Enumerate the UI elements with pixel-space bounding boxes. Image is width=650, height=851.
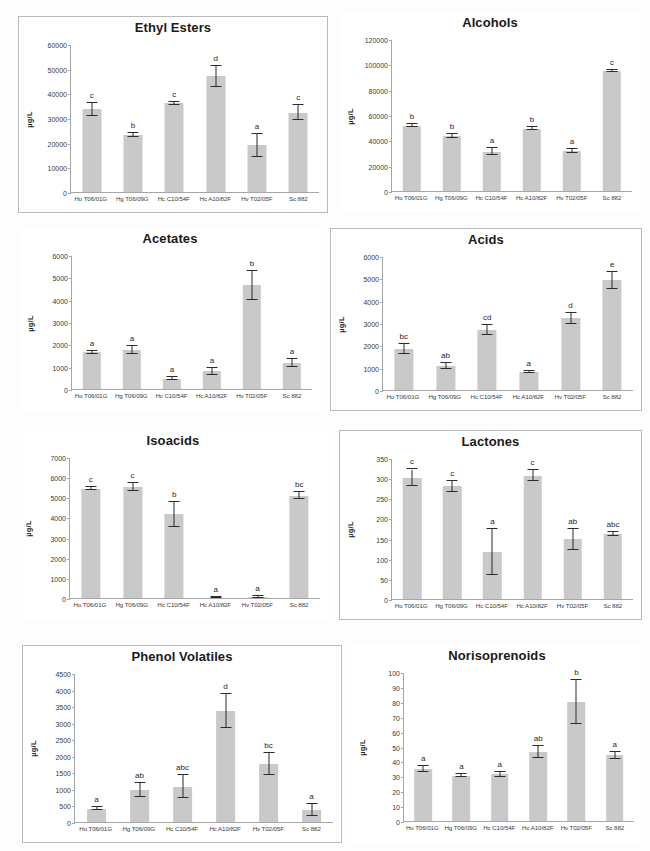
bar-group: b: [153, 458, 195, 599]
y-tick-label: 4000: [50, 515, 66, 522]
significance-letter: a: [210, 357, 214, 365]
significance-letter: abc: [176, 764, 189, 772]
x-tick-label: Sc 882: [596, 824, 635, 831]
x-tick-label: Hc C10/54F: [151, 392, 191, 399]
chart-title: Acids: [331, 233, 641, 246]
error-cap-top: [177, 774, 188, 775]
bar-group: bc: [383, 257, 425, 391]
y-tick-label: 40000: [369, 138, 388, 145]
bar-group: c: [278, 45, 319, 193]
x-tick-label: Hv T02/05F: [549, 393, 591, 400]
y-axis-label-text: µg/L: [346, 521, 355, 537]
x-tick-label: Hv T02/05F: [552, 602, 592, 609]
x-tick-label: Ho T06/01G: [382, 393, 424, 400]
significance-letter: e: [610, 261, 614, 269]
significance-letter: b: [250, 260, 254, 268]
bar-group: a: [552, 40, 592, 192]
significance-letter: ab: [568, 518, 577, 526]
y-axis-label: µg/L: [344, 459, 357, 600]
bar-group: b: [432, 40, 472, 192]
y-tick-mark: [69, 390, 72, 391]
error-cap-bottom: [447, 137, 458, 138]
error-cap-top: [86, 102, 97, 103]
significance-letter: b: [410, 113, 414, 121]
x-tick-label: Hc A10/82F: [512, 194, 552, 201]
x-tick-label: Ho T06/01G: [69, 601, 111, 608]
error-bar: [215, 597, 216, 599]
error-cap-top: [127, 482, 138, 483]
error-cap-top: [294, 491, 305, 492]
plot-canvas: cbcdac: [70, 45, 319, 193]
error-cap-top: [210, 65, 221, 66]
bar: [206, 76, 225, 193]
error-bar: [174, 502, 175, 528]
bar: [87, 809, 107, 823]
bar: [81, 489, 100, 599]
bar: [519, 372, 538, 391]
error-cap-bottom: [482, 334, 493, 335]
bar-group: abc: [161, 674, 204, 823]
error-cap-bottom: [220, 727, 231, 728]
y-axis-ticks: 050100150200250300350: [357, 459, 391, 600]
error-cap-bottom: [565, 323, 576, 324]
plot-canvas: aaaaba: [71, 256, 312, 390]
error-cap-top: [494, 771, 505, 772]
bar-series: cbcdac: [71, 45, 319, 193]
bar: [394, 349, 413, 391]
error-cap-bottom: [127, 136, 138, 137]
y-tick-label: 1000: [52, 364, 68, 371]
x-axis-labels: Ho T06/01GHg T06/09GHc C10/54FHc A10/82F…: [20, 392, 320, 399]
bar: [123, 487, 142, 599]
bar-group: ab: [425, 257, 467, 391]
bar: [290, 496, 309, 599]
y-axis-ticks: 0102030405060708090100: [369, 673, 403, 822]
y-axis-label: µg/L: [22, 458, 35, 599]
error-cap-bottom: [287, 366, 298, 367]
bar: [82, 109, 101, 193]
significance-letter: ab: [135, 772, 144, 780]
bar-group: a: [72, 256, 112, 390]
bar-group: a: [152, 256, 192, 390]
y-tick-label: 80000: [369, 87, 388, 94]
x-tick-label: Ho T06/01G: [71, 392, 111, 399]
bar-group: c: [112, 458, 154, 599]
bar-group: e: [591, 257, 633, 391]
y-tick-mark: [72, 823, 75, 824]
x-axis-labels: Ho T06/01GHg T06/09GHc C10/54FHc A10/82F…: [340, 194, 640, 201]
chart-title: Lactones: [340, 435, 641, 448]
bar: [123, 350, 141, 390]
y-tick-label: 1500: [55, 770, 71, 777]
error-cap-bottom: [91, 809, 102, 810]
error-cap-bottom: [571, 723, 582, 724]
bar: [529, 752, 547, 822]
significance-letter: ab: [534, 735, 543, 743]
x-tick-label: Sc 882: [592, 194, 632, 201]
error-bar: [572, 529, 573, 550]
bar: [603, 280, 622, 391]
error-cap-bottom: [567, 152, 578, 153]
significance-letter: c: [296, 94, 300, 102]
error-bar: [139, 783, 140, 797]
error-cap-top: [482, 324, 493, 325]
x-tick-label: Sc 882: [272, 392, 312, 399]
chart-title: Alcohols: [340, 16, 640, 29]
error-cap-top: [167, 376, 178, 377]
error-cap-top: [487, 528, 498, 529]
bar-group: d: [204, 674, 247, 823]
error-cap-top: [306, 803, 317, 804]
bar: [248, 597, 267, 599]
bar-group: cd: [466, 257, 508, 391]
bar: [478, 330, 497, 391]
y-axis-ticks: 050010001500200025003000350040004500: [40, 674, 74, 823]
error-cap-top: [169, 501, 180, 502]
error-cap-top: [207, 367, 218, 368]
significance-letter: a: [527, 360, 531, 368]
y-tick-label: 70: [392, 714, 400, 721]
y-tick-label: 20000: [369, 163, 388, 170]
y-tick-label: 1000: [363, 365, 379, 372]
plot-canvas: aaaabba: [403, 673, 634, 822]
y-axis-label: µg/L: [24, 256, 37, 390]
error-cap-bottom: [487, 154, 498, 155]
x-axis-labels: Ho T06/01GHg T06/09GHc C10/54FHc A10/82F…: [340, 602, 641, 609]
error-cap-bottom: [247, 299, 258, 300]
